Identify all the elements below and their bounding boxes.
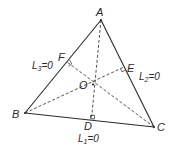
- right-angle-e: [121, 69, 126, 72]
- label-a: A: [95, 6, 103, 18]
- altitude-ad: [92, 20, 102, 119]
- point-a: [100, 19, 102, 21]
- label-l3: L3=0: [32, 60, 53, 72]
- label-c: C: [157, 121, 165, 133]
- label-l1: L1=0: [78, 133, 99, 145]
- label-d: D: [84, 120, 92, 132]
- point-b: [24, 112, 26, 114]
- label-f: F: [58, 51, 66, 63]
- label-o: O: [79, 79, 88, 91]
- label-b: B: [12, 108, 19, 120]
- right-angle-d: [90, 115, 94, 119]
- label-e: E: [127, 62, 135, 74]
- point-c: [153, 126, 155, 128]
- triangle-diagram: A B C D E F O L1=0 L2=0 L3=0: [0, 0, 175, 146]
- label-l2: L2=0: [139, 71, 160, 83]
- point-o: [92, 83, 94, 85]
- altitude-be: [25, 67, 124, 113]
